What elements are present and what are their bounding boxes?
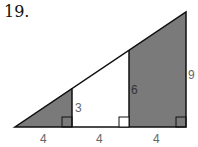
base-label-1: 4 (40, 132, 47, 146)
shaded-trapezoid (129, 12, 186, 127)
height-label-6: 6 (131, 83, 138, 97)
height-label-9: 9 (188, 68, 195, 82)
base-label-3: 4 (153, 132, 160, 146)
base-label-2: 4 (96, 132, 103, 146)
right-angle-marker-2 (119, 117, 129, 127)
similar-triangles-diagram: 4 4 4 3 6 9 (0, 0, 198, 147)
height-label-3: 3 (75, 101, 82, 115)
